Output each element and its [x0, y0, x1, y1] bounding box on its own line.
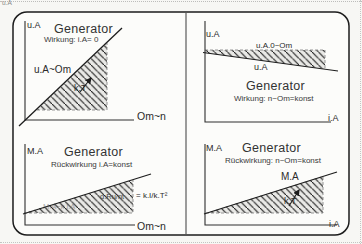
area-label-tl: k.T [74, 84, 87, 93]
subtitle-br: Rückwirkung: n~Om=konst [225, 157, 321, 165]
xaxis-label-bl: Om~n [137, 221, 166, 232]
band-top-label-tr: u.A.0~Om [256, 42, 292, 50]
faint-label-bl: M.A~k.i.A [43, 203, 75, 211]
xaxis-label-tl: Om~n [137, 111, 166, 122]
xaxis-label-br: i.A [329, 220, 340, 229]
inner-label-bl: d.Ru/nt [100, 193, 124, 201]
title-tr: Generator [246, 80, 305, 93]
curve-label-tl: u.A~Om [34, 65, 71, 75]
title-tl: Generator [54, 23, 113, 36]
yaxis-label-br: M.A [206, 144, 222, 153]
title-bl: Generator [64, 146, 123, 159]
subtitle-tl: Wirkung: i.A= 0 [44, 36, 98, 44]
yaxis-label-tr: u.A [206, 30, 220, 39]
area-label-br: k.T [284, 197, 297, 206]
title-br: Generator [242, 142, 301, 155]
subtitle-bl: Rückwirkung i.A=konst [51, 161, 132, 169]
subtitle-tr: Wirkung: n~Om=konst [234, 95, 314, 103]
band-bottom-label-tr: u.A [254, 63, 268, 72]
formula-bl: = k.I/k.T² [136, 192, 167, 200]
yaxis-label-bl: M.A [27, 147, 43, 156]
xaxis-label-tr: i.A [328, 114, 339, 123]
scanned-diagram-page: u.A [0, 0, 362, 244]
curve-label-br: M.A [281, 172, 299, 182]
yaxis-label-tl: u.A [27, 21, 41, 30]
